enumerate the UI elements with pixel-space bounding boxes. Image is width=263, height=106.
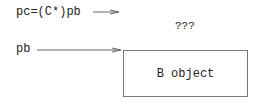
pc-arrow-icon <box>93 10 119 14</box>
b-object-box: B object <box>123 50 248 97</box>
b-object-label: B object <box>157 67 215 81</box>
pb-arrow-icon <box>37 48 121 52</box>
